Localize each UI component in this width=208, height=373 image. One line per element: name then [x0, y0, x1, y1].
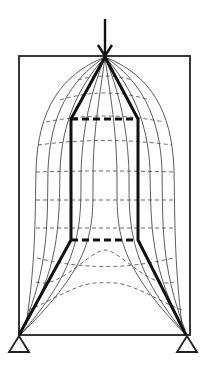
left-strut [19, 57, 105, 335]
arrow-down-icon [98, 19, 112, 56]
strut-and-tie-diagram [0, 0, 208, 373]
solid-trajectories [20, 57, 186, 335]
right-support-triangle-icon [177, 336, 197, 352]
left-support-triangle-icon [9, 336, 29, 352]
